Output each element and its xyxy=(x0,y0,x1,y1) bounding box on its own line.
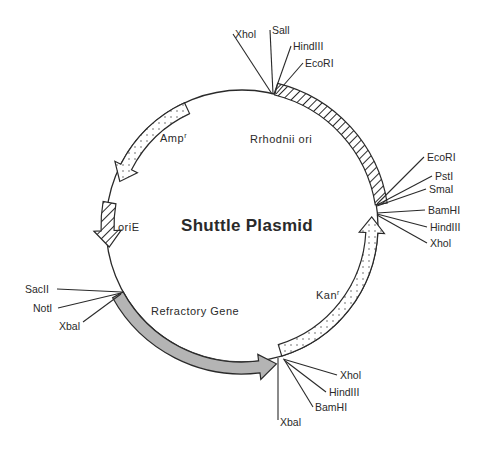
site-label-ecori-right: EcoRI xyxy=(427,151,456,163)
site-label-xhoi-right: Xhol xyxy=(430,237,451,249)
site-label-sali-top: Sall xyxy=(272,24,290,36)
site-label-bamhi-bottom: BamHI xyxy=(315,401,347,413)
feature-label-rrhodnii-ori: Rrhodnii ori xyxy=(250,133,312,145)
site-label-ecori-top: EcoRI xyxy=(305,57,334,69)
feature-label-refractory-gene: Refractory Gene xyxy=(151,305,239,317)
plasmid-title: Shuttle Plasmid xyxy=(181,216,313,235)
site-label-psti-right: PstI xyxy=(435,170,453,182)
site-label-hindiii-bottom: HindIII xyxy=(329,386,359,398)
site-label-bamhi-right: BamHI xyxy=(428,204,460,216)
site-label-smai-right: SmaI xyxy=(429,183,454,195)
feature-label-ampr: Ampr xyxy=(160,132,187,144)
site-label-hindiii-top: HindIII xyxy=(293,40,323,52)
kanr-feature xyxy=(278,217,384,356)
site-label-sacii-left: SacII xyxy=(25,283,49,295)
plasmid-map: Xhol Sall HindIII EcoRI EcoRI PstI SmaI … xyxy=(0,0,480,451)
site-label-xbai-left: Xbal xyxy=(59,320,80,332)
feature-label-orie: oriE xyxy=(118,221,140,233)
site-label-noti-left: NotI xyxy=(33,302,52,314)
site-label-xhoi-top: Xhol xyxy=(235,28,256,40)
site-label-xbai-bottom: Xbal xyxy=(280,416,301,428)
feature-label-kanr: Kanr xyxy=(316,289,340,301)
site-label-xhoi-bottom: Xhol xyxy=(340,369,361,381)
site-cluster-left xyxy=(57,289,122,322)
site-cluster-right-lower xyxy=(377,210,427,243)
site-label-hindiii-right: HindIII xyxy=(430,221,460,233)
